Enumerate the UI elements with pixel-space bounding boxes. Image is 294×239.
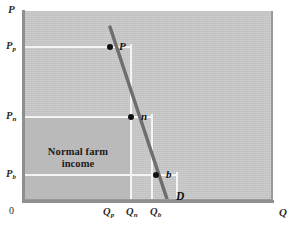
y-tick-pp-base: P (6, 40, 12, 51)
x-tick-qb-sub: b (158, 211, 162, 219)
x-axis-line (22, 200, 274, 203)
x-tick-qb-base: Q (150, 206, 158, 217)
y-tick-label-pb: Pb (6, 168, 16, 179)
y-axis-line (22, 10, 25, 203)
x-tick-qp-sub: p (111, 211, 115, 219)
y-tick-pn-base: P (6, 110, 12, 121)
y-tick-label-pp: Pp (6, 40, 16, 51)
y-tick-pb-base: P (6, 168, 12, 179)
data-point-p-dot (107, 44, 113, 50)
demand-curve-svg (24, 11, 273, 201)
plot-area: Normal farm income P n b (24, 11, 273, 201)
data-point-p-label: P (119, 40, 126, 52)
data-point-n-dot (128, 114, 134, 120)
data-point-b-label: b (166, 168, 172, 180)
y-tick-pn-sub: n (13, 115, 17, 123)
x-tick-label-qb: Qb (150, 206, 161, 217)
x-tick-qn-sub: n (134, 211, 138, 219)
demand-curve-label: D (176, 190, 184, 202)
origin-label: 0 (9, 205, 14, 216)
chart-screenshot: Normal farm income P n b P Q 0 Pp Pn Pb … (0, 0, 294, 239)
y-tick-label-pn: Pn (6, 110, 16, 121)
x-tick-label-qn: Qn (126, 206, 138, 217)
x-tick-qp-base: Q (103, 206, 111, 217)
x-tick-label-qp: Qp (103, 206, 114, 217)
y-tick-pp-sub: p (13, 45, 17, 53)
data-point-n-label: n (141, 110, 147, 122)
y-tick-pb-sub: b (13, 173, 17, 181)
x-axis-title: Q (279, 206, 287, 218)
y-axis-title: P (8, 3, 15, 15)
x-tick-qn-base: Q (126, 206, 134, 217)
data-point-b-dot (153, 172, 159, 178)
